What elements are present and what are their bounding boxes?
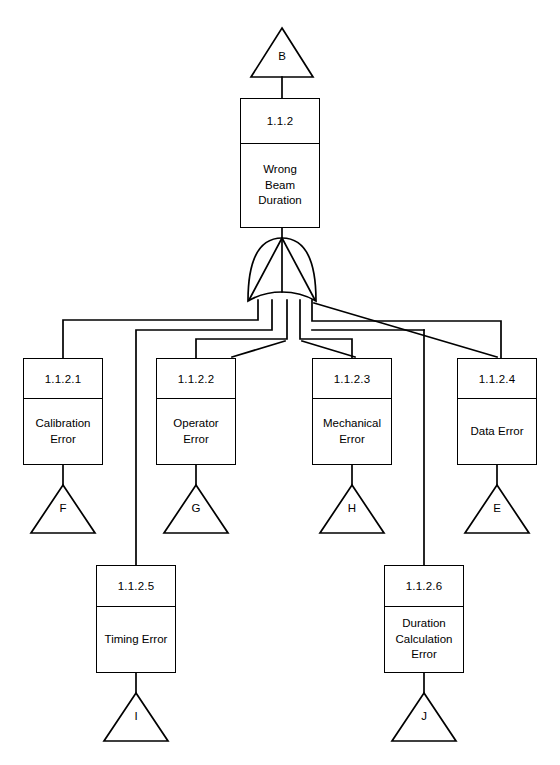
node-1124[interactable]: 1.1.2.4 Data Error [457,358,537,465]
node-1125[interactable]: 1.1.2.5 Timing Error [96,565,176,673]
node-id-112: 1.1.2 [241,99,319,144]
node-id-1121: 1.1.2.1 [24,359,102,399]
transfer-triangle-e [465,485,529,533]
transfer-triangle-i [104,693,168,741]
transfer-triangle-f [31,485,95,533]
node-desc-112: Wrong Beam Duration [241,144,319,227]
node-desc-1126: Duration Calculation Error [385,607,463,672]
node-desc-1121: Calibration Error [24,399,102,464]
node-id-1123: 1.1.2.3 [313,359,391,399]
transfer-triangle-j [392,693,456,741]
node-1122[interactable]: 1.1.2.2 Operator Error [156,358,236,465]
node-1126[interactable]: 1.1.2.6 Duration Calculation Error [384,565,464,673]
node-id-1126: 1.1.2.6 [385,566,463,607]
node-desc-1124: Data Error [458,399,536,464]
node-1121[interactable]: 1.1.2.1 Calibration Error [23,358,103,465]
fault-tree-diagram: B F G H E I J 1.1.2 Wrong Beam Duration … [0,0,560,765]
node-1123[interactable]: 1.1.2.3 Mechanical Error [312,358,392,465]
transfer-triangle-b [251,28,313,77]
transfer-triangle-g [164,485,228,533]
node-id-1122: 1.1.2.2 [157,359,235,399]
transfer-triangle-h [320,485,384,533]
edge-diagonal-left-inner [232,341,285,357]
edge-gate-to-1123 [300,300,352,358]
edge-gate-to-1122 [196,300,287,358]
node-desc-1122: Operator Error [157,399,235,464]
node-desc-1123: Mechanical Error [313,399,391,464]
node-top-event[interactable]: 1.1.2 Wrong Beam Duration [240,98,320,228]
node-desc-1125: Timing Error [97,607,175,672]
node-id-1125: 1.1.2.5 [97,566,175,607]
edge-diagonal-right-inner [302,341,355,357]
node-id-1124: 1.1.2.4 [458,359,536,399]
edge-gate-to-1121 [63,300,258,358]
